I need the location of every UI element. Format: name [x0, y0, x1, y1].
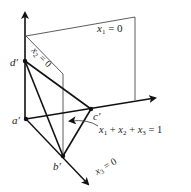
point-b: [61, 154, 65, 158]
simplex-edges: [25, 61, 91, 156]
label-b: b′: [53, 160, 62, 172]
label-simplex-equation: x1 + x2 + x3 = 1: [98, 124, 162, 137]
label-plane-x1: x1 = 0: [96, 22, 123, 36]
label-d: d′: [10, 56, 19, 68]
label-c: c′: [93, 110, 101, 122]
point-d: [23, 59, 27, 63]
point-a: [24, 117, 28, 121]
label-plane-x3: x3 = 0: [92, 155, 120, 179]
label-a: a′: [12, 114, 21, 126]
simplex-diagram: d′ a′ b′ c′ x1 = 0 x2 = 0 x3 = 0 x1 + x2…: [0, 0, 191, 192]
